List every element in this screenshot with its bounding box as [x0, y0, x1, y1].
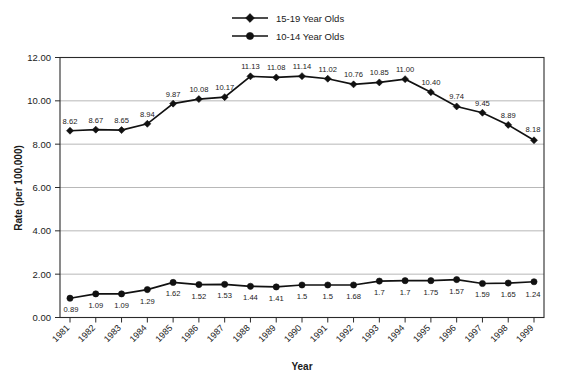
data-label: 1.65 [501, 290, 516, 299]
circle-icon [246, 32, 253, 39]
data-point-circle [93, 291, 99, 297]
data-point-circle [350, 282, 356, 288]
data-label: 1.24 [526, 290, 541, 299]
data-point-diamond [479, 109, 486, 116]
data-point-circle [273, 284, 279, 290]
data-label: 1.5 [297, 292, 308, 301]
x-axis-title: Year [291, 361, 312, 372]
y-axis-tick-labels: 0.002.004.006.008.0010.0012.00 [27, 52, 51, 323]
data-label: 8.62 [63, 117, 78, 126]
data-label: 8.89 [501, 111, 516, 120]
data-point-circle [299, 282, 305, 288]
data-label: 11.13 [241, 62, 259, 71]
data-label: 10.85 [370, 68, 389, 77]
data-label: 1.62 [166, 289, 181, 298]
x-tick-label: 1987 [205, 323, 226, 344]
data-point-circle [247, 283, 253, 289]
x-tick-label: 1994 [385, 323, 406, 344]
data-label: 10.17 [215, 83, 234, 92]
data-point-diamond [376, 79, 383, 86]
x-tick-label: 1988 [231, 323, 252, 344]
y-tick-label: 12.00 [27, 52, 51, 63]
x-tick-label: 1986 [179, 323, 200, 344]
legend-entry-1: 10-14 Year Olds [232, 31, 344, 42]
data-point-circle [196, 281, 202, 287]
data-label: 1.68 [346, 292, 361, 301]
data-point-circle [325, 282, 331, 288]
x-tick-label: 1984 [128, 323, 149, 344]
y-tick-label: 6.00 [33, 182, 52, 193]
data-point-circle [170, 279, 176, 285]
data-point-diamond [402, 76, 409, 83]
data-label: 10.08 [189, 85, 208, 94]
y-tick-label: 2.00 [33, 269, 52, 280]
y-axis-title: Rate (per 100,000) [13, 145, 24, 231]
data-label: 11.14 [293, 62, 311, 71]
x-tick-label: 1999 [514, 323, 535, 344]
data-label: 9.87 [166, 90, 181, 99]
data-label: 1.29 [140, 297, 155, 306]
data-label: 1.57 [449, 287, 464, 296]
x-tick-label: 1985 [153, 323, 174, 344]
data-point-circle [376, 278, 382, 284]
data-point-circle [531, 279, 537, 285]
legend-label-1: 10-14 Year Olds [276, 31, 344, 42]
data-point-circle [479, 280, 485, 286]
data-labels-10-14-year-olds: 0.891.091.091.291.621.521.531.441.411.51… [64, 287, 541, 315]
diamond-icon [246, 14, 255, 23]
data-point-diamond [427, 89, 434, 96]
data-point-circle [505, 280, 511, 286]
legend-label-0: 15-19 Year Olds [276, 13, 344, 24]
data-point-diamond [195, 96, 202, 103]
data-point-circle [118, 291, 124, 297]
y-tick-label: 8.00 [33, 139, 52, 150]
data-point-diamond [350, 81, 357, 88]
data-label: 8.94 [140, 110, 155, 119]
x-tick-label: 1990 [282, 323, 303, 344]
data-point-diamond [324, 75, 331, 82]
data-point-circle [428, 278, 434, 284]
data-label: 1.7 [400, 288, 411, 297]
x-tick-label: 1998 [488, 323, 509, 344]
data-label: 1.44 [243, 293, 258, 302]
legend-entry-0: 15-19 Year Olds [232, 13, 344, 24]
data-point-diamond [67, 127, 74, 134]
data-label: 0.89 [64, 305, 79, 314]
x-tick-label: 1993 [360, 323, 381, 344]
data-label: 11.08 [267, 63, 285, 72]
data-point-diamond [299, 73, 306, 80]
legend: 15-19 Year Olds 10-14 Year Olds [232, 13, 344, 42]
y-tick-label: 0.00 [33, 312, 52, 323]
data-label: 8.65 [114, 116, 129, 125]
x-tick-label: 1982 [76, 323, 97, 344]
data-label: 1.41 [269, 294, 284, 303]
data-label: 1.09 [88, 301, 103, 310]
data-label: 1.7 [374, 288, 385, 297]
x-axis-tick-marks [70, 318, 534, 323]
x-tick-label: 1981 [50, 323, 71, 344]
x-tick-label: 1983 [102, 323, 123, 344]
data-point-circle [454, 276, 460, 282]
x-tick-label: 1991 [308, 323, 329, 344]
series-15-19-year-olds [67, 73, 538, 144]
data-label: 11.02 [319, 65, 337, 74]
data-point-circle [144, 286, 150, 292]
data-label: 1.59 [475, 290, 490, 299]
data-label: 10.76 [344, 70, 363, 79]
data-label: 8.18 [526, 125, 541, 134]
x-tick-label: 1989 [256, 323, 277, 344]
data-label: 9.74 [449, 92, 464, 101]
x-tick-label: 1996 [437, 323, 458, 344]
data-point-diamond [273, 74, 280, 81]
line-chart: 15-19 Year Olds 10-14 Year Olds 0.002.00… [0, 0, 573, 382]
y-tick-label: 10.00 [27, 95, 51, 106]
y-tick-label: 4.00 [33, 225, 52, 236]
y-axis-tick-marks [55, 58, 60, 318]
chart-container: 15-19 Year Olds 10-14 Year Olds 0.002.00… [0, 0, 573, 382]
data-label: 1.53 [217, 291, 232, 300]
x-tick-label: 1992 [334, 323, 355, 344]
data-label: 1.09 [114, 301, 129, 310]
x-tick-label: 1997 [463, 323, 484, 344]
data-label: 11.00 [396, 65, 414, 74]
data-point-diamond [92, 126, 99, 133]
